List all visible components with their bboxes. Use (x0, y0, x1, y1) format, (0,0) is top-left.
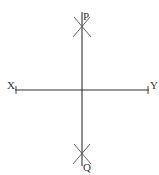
construction-diagram: X Y P Q (0, 0, 159, 175)
label-p: P (83, 10, 89, 22)
label-x: X (7, 79, 15, 91)
label-y: Y (150, 79, 158, 91)
label-q: Q (83, 161, 91, 173)
